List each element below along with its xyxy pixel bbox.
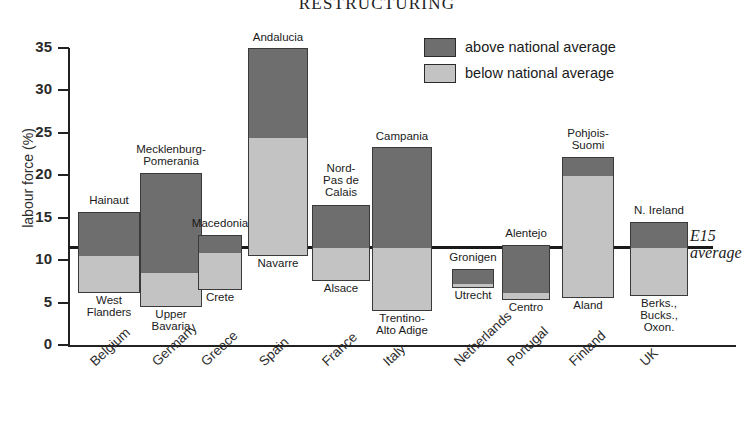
bar-uk[interactable] xyxy=(630,222,688,296)
bar-segment-above-uk xyxy=(631,223,687,248)
restructuring-chart: RESTRUCTURING labour force (%) 051015202… xyxy=(0,0,754,448)
bar-group-uk: N. IrelandBerks., Bucks., Oxon. xyxy=(0,0,754,448)
bar-segment-below-uk xyxy=(631,248,687,295)
region-label-top-uk: N. Ireland xyxy=(608,205,710,217)
region-label-bottom-uk: Berks., Bucks., Oxon. xyxy=(608,298,710,334)
